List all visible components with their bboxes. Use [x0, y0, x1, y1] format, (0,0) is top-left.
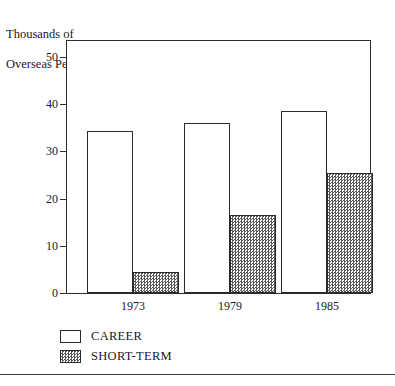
y-axis-label-0: 0: [18, 287, 58, 299]
y-axis-label-40: 40: [18, 98, 58, 110]
x-axis-label-1985: 1985: [292, 299, 362, 314]
bar-group-1973: [87, 41, 179, 293]
legend-item-short-term: SHORT-TERM: [60, 347, 172, 365]
y-axis-label-50: 50: [18, 51, 58, 63]
chart-figure: Thousands of Overseas Personnel 01020304…: [0, 0, 395, 386]
y-axis-label-20: 20: [18, 193, 58, 205]
y-axis-tick-50: [60, 57, 67, 58]
bar-group-1979: [184, 41, 276, 293]
bar-short-term-1979: [230, 215, 276, 293]
bar-group-1985: [281, 41, 373, 293]
legend-label-career: CAREER: [91, 329, 142, 344]
bars-layer: [67, 41, 369, 293]
bar-short-term-1973: [133, 272, 179, 293]
legend-item-career: CAREER: [60, 327, 172, 345]
bar-career-1985: [281, 111, 327, 293]
y-axis-tick-30: [60, 151, 67, 152]
x-axis-label-1973: 1973: [98, 299, 168, 314]
y-axis-tick-40: [60, 104, 67, 105]
y-axis-tick-20: [60, 199, 67, 200]
y-axis-label-10: 10: [18, 240, 58, 252]
chart-legend: CAREERSHORT-TERM: [60, 327, 172, 367]
legend-swatch-career: [60, 330, 81, 343]
y-axis-label-30: 30: [18, 145, 58, 157]
bar-short-term-1985: [327, 173, 373, 293]
y-axis-tick-10: [60, 246, 67, 247]
bar-career-1979: [184, 123, 230, 293]
legend-label-short-term: SHORT-TERM: [91, 349, 172, 364]
x-axis-label-1979: 1979: [195, 299, 265, 314]
bottom-divider: [0, 374, 395, 375]
y-axis-tick-0: [60, 293, 67, 294]
bar-career-1973: [87, 131, 133, 293]
legend-swatch-short-term: [60, 350, 81, 363]
y-axis-labels: 01020304050: [8, 0, 58, 386]
